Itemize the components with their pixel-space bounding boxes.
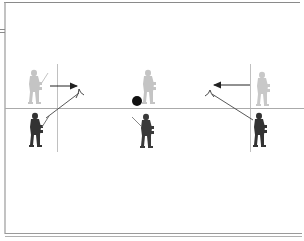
right-defense-player [253, 113, 267, 147]
left-cut-line [46, 93, 79, 118]
field-lines [5, 64, 304, 152]
right-offense-player [256, 72, 270, 106]
right-cone-marker [205, 90, 214, 97]
center-defense-player [132, 114, 154, 148]
lacrosse-drill-diagram [0, 0, 304, 241]
center-offense-player [142, 70, 156, 104]
right-cut-line [212, 94, 253, 120]
left-cone-marker [76, 89, 84, 98]
ball [132, 96, 142, 106]
left-offense-player [28, 70, 48, 104]
